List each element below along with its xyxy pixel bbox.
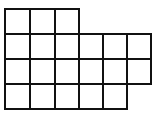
grid-cell — [54, 8, 80, 35]
grid-cell — [54, 83, 80, 110]
grid-cell — [126, 33, 152, 60]
grid-cell — [54, 58, 80, 85]
grid-cell — [29, 83, 56, 110]
grid-cell — [29, 8, 56, 35]
grid-cell — [4, 58, 31, 85]
grid-cell — [78, 33, 104, 60]
grid-cell — [102, 33, 128, 60]
grid-cell — [102, 83, 128, 110]
grid-cell — [4, 33, 31, 60]
square-grid-shape — [0, 0, 163, 115]
grid-cell — [4, 83, 31, 110]
grid-cell — [29, 58, 56, 85]
grid-cell — [29, 33, 56, 60]
grid-cell — [54, 33, 80, 60]
grid-cell — [78, 58, 104, 85]
grid-cell — [126, 58, 152, 85]
grid-cell — [102, 58, 128, 85]
grid-cell — [4, 8, 31, 35]
grid-cell — [78, 83, 104, 110]
